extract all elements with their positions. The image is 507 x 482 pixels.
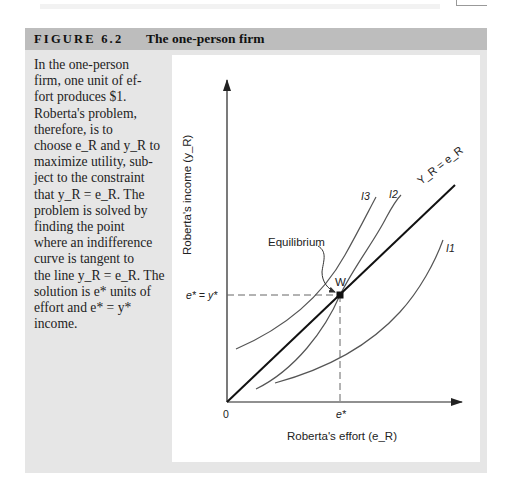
chart-svg: Equilibrium W 0 e* e* = y* Roberta's eff… [0,0,507,482]
equilibrium-point [337,292,344,299]
equilibrium-label: Equilibrium [268,236,325,248]
y-axis-label: Roberta's income (y_R) [181,134,193,255]
point-w-label: W [335,276,346,288]
y-tick-e-star-y-star: e* = y* [186,289,218,301]
indifference-curve-i2 [256,195,401,389]
curve-label-i2: I2 [389,188,398,200]
x-tick-e-star: e* [336,408,347,420]
equilibrium-arrow [318,246,335,292]
origin-label: 0 [223,408,229,420]
curve-label-i1: I1 [446,242,455,254]
x-axis-label: Roberta's effort (e_R) [287,430,397,442]
curve-label-i3: I3 [361,190,370,202]
budget-line-label: Y_R = e_R [415,144,465,187]
